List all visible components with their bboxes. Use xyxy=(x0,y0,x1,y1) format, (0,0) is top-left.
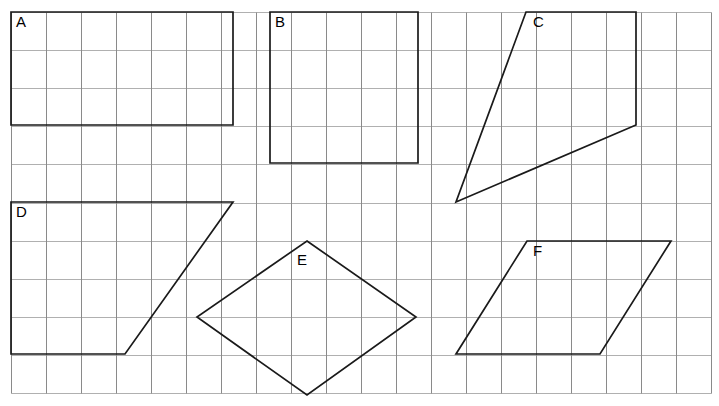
shape-a xyxy=(11,12,233,125)
shape-f xyxy=(456,241,671,354)
shape-label-c: C xyxy=(533,13,544,30)
shape-label-f: F xyxy=(533,242,542,259)
shape-d xyxy=(11,202,233,354)
shape-label-a: A xyxy=(16,13,26,30)
shapes-figure: ABCDEF xyxy=(0,0,719,406)
shape-label-e: E xyxy=(297,251,307,268)
shape-label-d: D xyxy=(16,203,27,220)
shape-c xyxy=(456,12,636,202)
shapes-worksheet: ABCDEF xyxy=(0,0,719,406)
shape-b xyxy=(270,12,418,163)
grid-vertical-lines xyxy=(12,13,712,394)
shape-labels-group: ABCDEF xyxy=(16,13,544,268)
shape-label-b: B xyxy=(275,13,285,30)
